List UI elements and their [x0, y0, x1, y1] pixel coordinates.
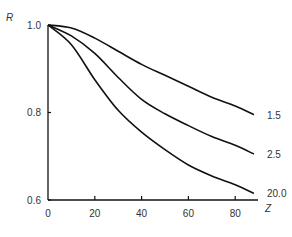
y-tick-label: 0.6: [27, 195, 41, 206]
x-tick-label: 80: [230, 208, 242, 219]
curve-20-0: [48, 25, 254, 193]
series-label: 1.5: [267, 110, 281, 121]
y-tick-label: 1.0: [27, 20, 41, 31]
x-tick-label: 60: [183, 208, 195, 219]
x-axis-label: Z: [264, 203, 272, 214]
x-tick-label: 20: [89, 208, 101, 219]
x-tick-label: 40: [136, 208, 148, 219]
curve-2-5: [48, 25, 254, 154]
labels: 1.52.520.0: [267, 110, 287, 200]
y-axis-label: R: [6, 12, 13, 23]
axes: [48, 25, 258, 200]
curves: [48, 25, 254, 193]
line-chart: 0204060800.60.81.0 1.52.520.0 R Z: [0, 0, 292, 237]
series-label: 2.5: [267, 149, 281, 160]
curve-1-5: [48, 25, 254, 115]
ticks: 0204060800.60.81.0: [27, 20, 241, 220]
y-tick-label: 0.8: [27, 107, 41, 118]
x-tick-label: 0: [45, 208, 51, 219]
series-label: 20.0: [267, 188, 287, 199]
